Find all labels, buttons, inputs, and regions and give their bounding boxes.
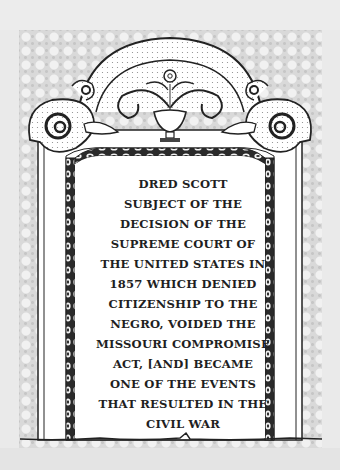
inscription-line: ACT, [AND] BECAME: [86, 354, 280, 374]
inscription-line: THAT RESULTED IN THE: [86, 394, 280, 414]
inscription-line: MISSOURI COMPROMISE: [86, 334, 280, 354]
inscription-line: CIVIL WAR: [86, 414, 280, 434]
inscription-line: THE UNITED STATES IN: [86, 254, 280, 274]
inscription-line: CITIZENSHIP TO THE: [86, 294, 280, 314]
inscription-line: SUPREME COURT OF: [86, 234, 280, 254]
inscription-line: 1857 WHICH DENIED: [86, 274, 280, 294]
inscription-line: DECISION OF THE: [86, 214, 280, 234]
inscription-line: SUBJECT OF THE: [86, 194, 280, 214]
inscription-text: DRED SCOTT SUBJECT OF THE DECISION OF TH…: [86, 174, 280, 434]
inscription-line: DRED SCOTT: [86, 174, 280, 194]
inscription-line: NEGRO, VOIDED THE: [86, 314, 280, 334]
inscription-line: ONE OF THE EVENTS: [86, 374, 280, 394]
